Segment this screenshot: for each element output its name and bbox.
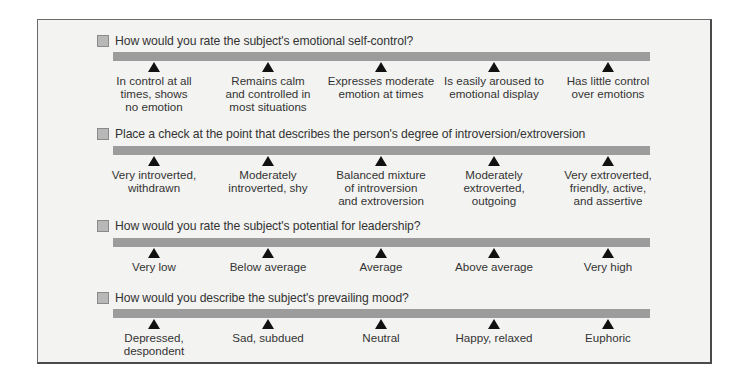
scale-point-label: Is easily aroused to emotional display bbox=[434, 74, 554, 100]
triangle-marker-icon bbox=[262, 319, 274, 329]
scale-point-label: Expresses moderate emotion at times bbox=[321, 74, 441, 100]
question-text: Place a check at the point that describe… bbox=[115, 127, 585, 141]
scale-point-label: Very extroverted, friendly, active, and … bbox=[548, 168, 668, 207]
scale-point-label: Above average bbox=[434, 260, 554, 273]
scale-point-3[interactable]: Expresses moderate emotion at times bbox=[321, 62, 441, 100]
scale-point-3[interactable]: Average bbox=[321, 248, 441, 273]
question-text: How would you rate the subject's potenti… bbox=[115, 219, 420, 233]
rating-scale-bar[interactable] bbox=[113, 146, 650, 155]
question-header: How would you rate the subject's potenti… bbox=[97, 220, 420, 232]
scale-point-5[interactable]: Very extroverted, friendly, active, and … bbox=[548, 156, 668, 207]
scale-point-label: Moderately introverted, shy bbox=[208, 168, 328, 194]
scale-point-label: Very high bbox=[548, 260, 668, 273]
triangle-marker-icon bbox=[262, 156, 274, 166]
scale-point-2[interactable]: Below average bbox=[208, 248, 328, 273]
triangle-marker-icon bbox=[375, 156, 387, 166]
triangle-marker-icon bbox=[488, 319, 500, 329]
scale-point-1[interactable]: Depressed, despondent bbox=[94, 319, 214, 357]
question-text: How would you rate the subject's emotion… bbox=[115, 34, 413, 48]
triangle-marker-icon bbox=[262, 62, 274, 72]
scale-point-label: Below average bbox=[208, 260, 328, 273]
scale-point-label: Sad, subdued bbox=[208, 331, 328, 344]
scale-point-2[interactable]: Sad, subdued bbox=[208, 319, 328, 344]
question-header: Place a check at the point that describe… bbox=[97, 128, 585, 140]
scale-point-label: Has little control over emotions bbox=[548, 74, 668, 100]
triangle-marker-icon bbox=[148, 319, 160, 329]
rating-scale-bar[interactable] bbox=[113, 309, 650, 318]
triangle-marker-icon bbox=[488, 248, 500, 258]
question-text: How would you describe the subject's pre… bbox=[115, 291, 409, 305]
scale-point-label: Very introverted, withdrawn bbox=[94, 168, 214, 194]
scale-point-1[interactable]: Very low bbox=[94, 248, 214, 273]
question-checkbox[interactable] bbox=[97, 35, 109, 47]
triangle-marker-icon bbox=[148, 156, 160, 166]
rating-scale-panel: How would you rate the subject's emotion… bbox=[37, 19, 712, 364]
triangle-marker-icon bbox=[375, 319, 387, 329]
scale-point-2[interactable]: Moderately introverted, shy bbox=[208, 156, 328, 194]
question-header: How would you rate the subject's emotion… bbox=[97, 35, 413, 47]
scale-point-label: Balanced mixture of introversion and ext… bbox=[321, 168, 441, 207]
scale-point-label: Remains calm and controlled in most situ… bbox=[208, 74, 328, 113]
question-header: How would you describe the subject's pre… bbox=[97, 292, 409, 304]
scale-point-label: Happy, relaxed bbox=[434, 331, 554, 344]
question-checkbox[interactable] bbox=[97, 292, 109, 304]
triangle-marker-icon bbox=[602, 319, 614, 329]
scale-point-3[interactable]: Neutral bbox=[321, 319, 441, 344]
scale-point-1[interactable]: Very introverted, withdrawn bbox=[94, 156, 214, 194]
triangle-marker-icon bbox=[488, 156, 500, 166]
scale-point-label: Depressed, despondent bbox=[94, 331, 214, 357]
scale-point-label: In control at all times, shows no emotio… bbox=[94, 74, 214, 113]
scale-point-5[interactable]: Has little control over emotions bbox=[548, 62, 668, 100]
rating-scale-bar[interactable] bbox=[113, 52, 650, 61]
question-checkbox[interactable] bbox=[97, 220, 109, 232]
scale-point-5[interactable]: Very high bbox=[548, 248, 668, 273]
scale-point-1[interactable]: In control at all times, shows no emotio… bbox=[94, 62, 214, 113]
triangle-marker-icon bbox=[148, 248, 160, 258]
triangle-marker-icon bbox=[488, 62, 500, 72]
triangle-marker-icon bbox=[375, 62, 387, 72]
triangle-marker-icon bbox=[602, 156, 614, 166]
scale-point-4[interactable]: Moderately extroverted, outgoing bbox=[434, 156, 554, 207]
question-checkbox[interactable] bbox=[97, 128, 109, 140]
rating-scale-bar[interactable] bbox=[113, 238, 650, 247]
scale-point-label: Moderately extroverted, outgoing bbox=[434, 168, 554, 207]
scale-point-label: Euphoric bbox=[548, 331, 668, 344]
scale-point-4[interactable]: Is easily aroused to emotional display bbox=[434, 62, 554, 100]
triangle-marker-icon bbox=[375, 248, 387, 258]
triangle-marker-icon bbox=[602, 62, 614, 72]
triangle-marker-icon bbox=[262, 248, 274, 258]
scale-point-label: Very low bbox=[94, 260, 214, 273]
scale-point-label: Average bbox=[321, 260, 441, 273]
triangle-marker-icon bbox=[148, 62, 160, 72]
scale-point-4[interactable]: Happy, relaxed bbox=[434, 319, 554, 344]
triangle-marker-icon bbox=[602, 248, 614, 258]
scale-point-4[interactable]: Above average bbox=[434, 248, 554, 273]
scale-point-label: Neutral bbox=[321, 331, 441, 344]
scale-point-3[interactable]: Balanced mixture of introversion and ext… bbox=[321, 156, 441, 207]
scale-point-5[interactable]: Euphoric bbox=[548, 319, 668, 344]
scale-point-2[interactable]: Remains calm and controlled in most situ… bbox=[208, 62, 328, 113]
